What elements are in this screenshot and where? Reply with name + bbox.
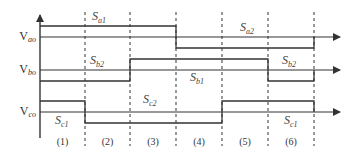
switch-label-a1: Sa1 xyxy=(92,9,106,25)
switch-label-b1: Sb1 xyxy=(190,70,204,86)
labels: VaoSa1Sa2VboSb2Sb1Sb2VcoSc1Sc2Sc1(1)(2)(… xyxy=(19,9,297,148)
period-label-1: (1) xyxy=(57,136,69,148)
switch-label-b2: Sb2 xyxy=(90,53,104,69)
period-label-3: (3) xyxy=(147,136,159,148)
switch-label-c2: Sc2 xyxy=(143,92,157,108)
switch-label-c1: Sc1 xyxy=(284,113,298,129)
switch-label-c1: Sc1 xyxy=(55,113,69,129)
vco-label: Vco xyxy=(20,104,36,119)
switch-label-b2: Sb2 xyxy=(282,53,296,69)
switching-waveform-diagram: VaoSa1Sa2VboSb2Sb1Sb2VcoSc1Sc2Sc1(1)(2)(… xyxy=(0,0,357,157)
period-label-2: (2) xyxy=(102,136,114,148)
waveforms xyxy=(40,26,314,123)
vao-label: Vao xyxy=(19,29,36,44)
period-label-5: (5) xyxy=(239,136,251,148)
vbo-label: Vbo xyxy=(19,62,36,77)
period-label-6: (6) xyxy=(285,136,297,148)
period-label-4: (4) xyxy=(193,136,205,148)
switch-label-a2: Sa2 xyxy=(240,20,254,36)
